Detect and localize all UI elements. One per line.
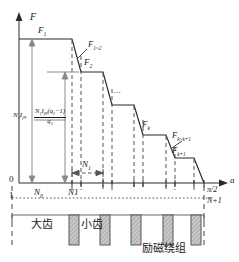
label-tick-big-tooth: N0 (34, 188, 43, 199)
label-small-tooth: 小齿 (81, 219, 103, 230)
x-end-tick-label: π/2 (207, 186, 217, 194)
label-fk-k1: Fk~k+1 (172, 131, 191, 142)
label-fk-sub: k (148, 125, 150, 131)
y-axis-arrow (16, 12, 23, 21)
label-f1-2: F1~2 (88, 40, 101, 51)
fraction-denominator: q2 (34, 118, 66, 127)
label-big-tooth: 大齿 (31, 219, 53, 230)
amplitude-arrow-partial (47, 72, 79, 183)
label-f1-sub: 1 (44, 31, 47, 37)
frac-den-q-sub: 2 (51, 121, 53, 126)
winding-slot-5 (191, 215, 201, 245)
label-f2: F2 (84, 58, 92, 69)
label-f1: F1 (38, 26, 46, 37)
label-fraction-amplitude: N1IfN(q2−1) q2 (34, 108, 66, 126)
mmf-staircase-figure: F a 0 1 π/2 N+1 F1 F1~2 F2 ... Fk Fk~k+1… (0, 0, 239, 262)
label-fk-k1-sub: k~k+1 (177, 136, 191, 142)
origin-label: 0 (9, 175, 14, 184)
x-axis-arrow (219, 180, 228, 187)
x-end-secondary-label: N+1 (207, 197, 222, 205)
label-n0-sub: 0 (40, 193, 43, 199)
label-f2-sub: 2 (90, 63, 93, 69)
label-ellipsis: ... (113, 86, 121, 95)
label-fk: Fk (142, 120, 150, 131)
label-span-n1-sub: 1 (88, 165, 91, 171)
y-axis-label: F (30, 12, 36, 22)
label-span-n1: N1 (82, 160, 91, 171)
frac-num-tail: −1) (55, 107, 65, 114)
label-tick-small-tooth: N1 (68, 188, 79, 197)
x-axis-label: a (230, 176, 235, 185)
winding-slot-4 (163, 215, 173, 245)
label-f1-2-sub: 1~2 (93, 45, 101, 51)
label-fk1: Fk+1 (172, 146, 186, 157)
label-excitation-winding: 励磁绕组 (142, 243, 186, 254)
fraction: N1IfN(q2−1) q2 (34, 108, 66, 126)
winding-slot-1 (69, 215, 79, 245)
secondary-origin-label: 1 (9, 191, 14, 200)
label-fk1-sub: k+1 (177, 151, 186, 157)
label-full-amplitude: N1IfN (13, 112, 26, 121)
label-leader-lines (78, 49, 182, 148)
label-full-amp-i-sub: fN (22, 115, 26, 120)
winding-slot-3 (131, 215, 141, 245)
